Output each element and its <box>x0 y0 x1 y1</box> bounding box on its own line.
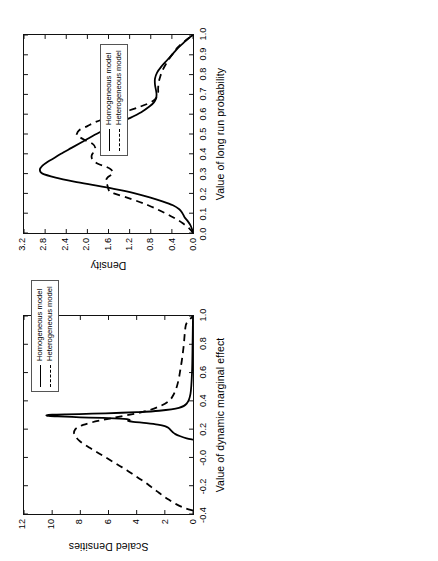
ytick-label: 2.4 <box>60 238 70 274</box>
figure-rotator: Value of dynamic marginal effect Scaled … <box>0 0 438 561</box>
ytick-label: 0.4 <box>167 238 177 274</box>
xtick-label: 1.0 <box>198 19 208 49</box>
panel-density: Value of long run probability Density 0.… <box>0 0 438 280</box>
xtick-label: 1.0 <box>198 300 208 330</box>
ytick-label: 0.8 <box>145 238 155 274</box>
ytick-label: 4 <box>131 519 141 555</box>
ytick-label: 6 <box>103 519 113 555</box>
ytick-label: 12 <box>17 519 27 555</box>
legend-label-homogeneous: Homogeneous model <box>104 53 114 125</box>
legend-swatch-dashed-icon <box>119 129 120 151</box>
legend-bottom: Homogeneous model Heterogeneous model <box>100 44 128 156</box>
legend-top: Homogeneous model Heterogeneous model <box>31 280 59 392</box>
xtick-label: 0.8 <box>198 329 208 359</box>
xtick-label: -0.0 <box>198 443 208 473</box>
figure: Value of dynamic marginal effect Scaled … <box>0 0 438 561</box>
legend-label-heterogeneous: Heterogeneous model <box>45 286 55 361</box>
legend-swatch-solid-icon <box>109 129 110 151</box>
legend-label-homogeneous: Homogeneous model <box>35 289 45 361</box>
legend-entry-heterogeneous: Heterogeneous model <box>45 286 55 387</box>
xtick-label: 0.4 <box>198 386 208 416</box>
ytick-label: 2 <box>160 519 170 555</box>
panel-scaled-densities: Value of dynamic marginal effect Scaled … <box>0 281 438 561</box>
ytick-label: 0 <box>188 519 198 555</box>
ytick-label: 0.0 <box>188 238 198 274</box>
ytick-label: 1.2 <box>124 238 134 274</box>
xtick-label: 0.2 <box>198 414 208 444</box>
ytick-label: 2.0 <box>81 238 91 274</box>
legend-swatch-solid-icon <box>40 365 41 387</box>
ytick-label: 2.8 <box>38 238 48 274</box>
legend-swatch-dashed-icon <box>50 365 51 387</box>
legend-entry-heterogeneous: Heterogeneous model <box>114 50 124 151</box>
legend-entry-homogeneous: Homogeneous model <box>35 286 45 387</box>
xtick-label: 0.6 <box>198 357 208 387</box>
ytick-label: 8 <box>74 519 84 555</box>
series-0-solid <box>46 316 193 440</box>
xtick-label: -0.4 <box>198 500 208 530</box>
xtick-label: -0.2 <box>198 471 208 501</box>
ytick-label: 3.2 <box>17 238 27 274</box>
ytick-label: 10 <box>46 519 56 555</box>
legend-entry-homogeneous: Homogeneous model <box>104 50 114 151</box>
ytick-label: 1.6 <box>103 238 113 274</box>
xaxis-label-bottom: Value of long run probability <box>214 34 226 234</box>
xaxis-label-top: Value of dynamic marginal effect <box>214 315 226 515</box>
series-1-dashed <box>77 35 193 233</box>
legend-label-heterogeneous: Heterogeneous model <box>114 50 124 125</box>
